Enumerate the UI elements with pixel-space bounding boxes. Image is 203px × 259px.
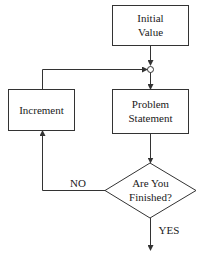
junction-circle	[148, 67, 154, 73]
initial-value-line1: Initial	[112, 11, 189, 25]
problem-statement-label: Problem Statement	[112, 97, 189, 125]
no-text: NO	[70, 177, 86, 189]
edge-increment-to-junction	[43, 70, 148, 90]
problem-statement-line1: Problem	[112, 97, 189, 111]
no-label: NO	[66, 176, 90, 190]
decision-line2: Finished?	[112, 190, 189, 204]
yes-label: YES	[156, 223, 182, 237]
increment-label: Increment	[8, 103, 75, 117]
decision-line1: Are You	[112, 176, 189, 190]
initial-value-line2: Value	[112, 25, 189, 39]
decision-label: Are You Finished?	[112, 176, 189, 204]
problem-statement-line2: Statement	[112, 111, 189, 125]
increment-text: Increment	[19, 104, 64, 116]
initial-value-label: Initial Value	[112, 11, 189, 39]
yes-text: YES	[159, 224, 180, 236]
